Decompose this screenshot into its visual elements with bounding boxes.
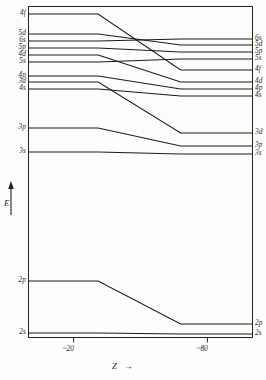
right-label-4s: 4s — [255, 92, 262, 99]
x-axis-arrow-icon: → — [119, 361, 133, 371]
axis-ticks — [74, 338, 208, 343]
level-line — [29, 152, 252, 154]
right-label-2p: 2p — [255, 320, 263, 327]
right-label-6s: 6s — [255, 35, 262, 42]
right-label-3s: 3s — [255, 150, 262, 157]
level-line — [29, 128, 252, 146]
level-line — [29, 89, 252, 96]
x-axis-label-text: Z — [112, 361, 117, 371]
level-line — [29, 333, 252, 334]
left-label-5s: 5s — [19, 58, 26, 65]
left-label-4f: 4f — [20, 10, 26, 17]
left-label-3p: 3p — [18, 124, 26, 131]
energy-level-diagram: 4f5d6s5p4d5s4p3d4s3p3s2p2s 4f5d6s5p4d5s4… — [0, 0, 266, 380]
diagram-canvas — [0, 0, 266, 380]
level-line — [29, 59, 252, 62]
x-axis-label: Z → — [112, 361, 133, 371]
level-line — [29, 281, 252, 324]
right-label-3d: 3d — [255, 129, 263, 136]
left-label-3s: 3s — [19, 148, 26, 155]
left-label-2s: 2s — [19, 329, 26, 336]
x-tick-label: ~20 — [63, 344, 74, 353]
right-label-5s: 5s — [255, 55, 262, 62]
plot-frame — [29, 7, 253, 338]
right-label-3p: 3p — [255, 142, 263, 149]
left-label-2p: 2p — [18, 277, 26, 284]
y-axis-label: E — [4, 198, 9, 208]
right-label-2s: 2s — [255, 330, 262, 337]
left-label-4s: 4s — [19, 85, 26, 92]
level-lines — [29, 14, 252, 334]
x-tick-label: ~80 — [196, 344, 207, 353]
level-line — [29, 48, 252, 52]
right-label-4f: 4f — [255, 66, 261, 73]
level-line — [29, 82, 252, 133]
